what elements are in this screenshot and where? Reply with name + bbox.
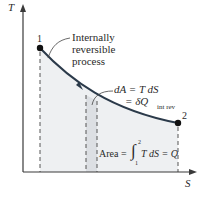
state-point-2 xyxy=(175,120,181,126)
area-upper-limit: 2 xyxy=(138,139,141,145)
process-label-line2: reversible xyxy=(72,44,115,55)
area-label-prefix: Area = xyxy=(99,149,127,159)
area-integral-sign: ∫ xyxy=(131,142,136,159)
state-point-1 xyxy=(37,45,43,51)
da-label-line2: = δQ xyxy=(125,96,148,107)
ts-diagram xyxy=(0,0,201,197)
x-axis-arrow-icon xyxy=(189,169,197,175)
process-label-line1: Internally xyxy=(72,32,115,43)
area-label-suffix: T dS = Q xyxy=(141,149,178,159)
area-lower-limit: 1 xyxy=(135,160,138,166)
point-1-label: 1 xyxy=(37,34,42,44)
da-strip xyxy=(86,95,97,172)
process-label-line3: process xyxy=(72,56,105,67)
y-axis-arrow-icon xyxy=(20,4,26,12)
process-leader-line xyxy=(48,38,70,58)
point-2-label: 2 xyxy=(182,111,187,121)
da-label-subscript: int rev xyxy=(157,104,175,111)
da-label-line1: dA = T dS xyxy=(114,84,159,95)
y-axis-label: T xyxy=(8,2,14,13)
x-axis-label: S xyxy=(185,178,191,189)
